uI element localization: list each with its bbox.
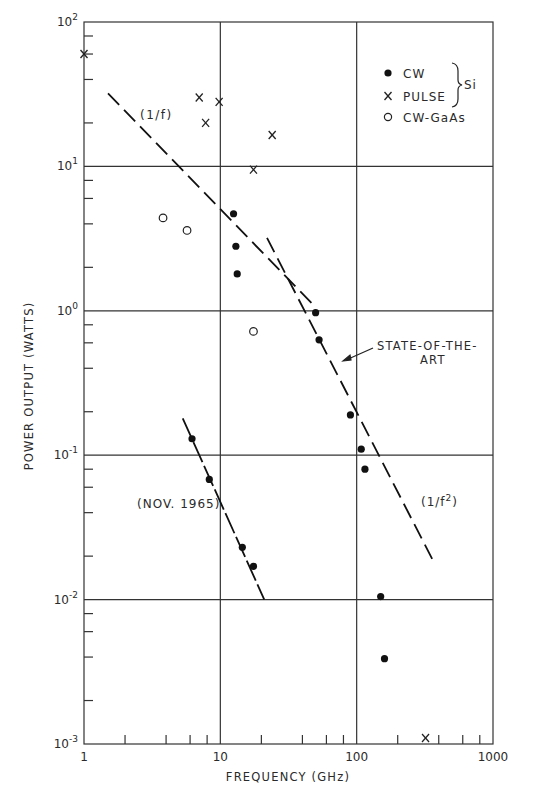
point-cw xyxy=(232,243,239,250)
annotation-arrow-icon xyxy=(343,348,373,361)
x-tick-label: 10 xyxy=(213,750,228,764)
plot-frame xyxy=(84,22,493,744)
point-cw xyxy=(361,466,368,473)
y-axis-title: POWER OUTPUT (WATTS) xyxy=(22,302,36,471)
grid-lines xyxy=(84,22,493,744)
annotation-state-of-the-art: STATE-OF-THE- xyxy=(377,339,478,353)
x-tick-label: 100 xyxy=(345,750,368,764)
point-cw xyxy=(234,270,241,277)
point-cw-gaas xyxy=(159,214,167,222)
point-pulse xyxy=(202,119,209,127)
point-cw xyxy=(230,210,237,217)
point-pulse xyxy=(269,131,276,139)
y-tick-labels: 10210110010-110-210-3 xyxy=(54,12,79,751)
legend-pulse-label: PULSE xyxy=(403,90,446,104)
legend-cw-marker-icon xyxy=(384,69,391,76)
point-pulse xyxy=(196,94,203,102)
point-cw xyxy=(239,544,246,551)
data-points xyxy=(81,50,430,742)
y-tick-label: 10-1 xyxy=(54,445,78,462)
point-cw xyxy=(377,593,384,600)
annotation-nov-1965: (NOV. 1965) xyxy=(137,497,220,511)
legend: CW PULSE CW-GaAs Si xyxy=(384,63,477,125)
y-tick-label: 101 xyxy=(57,156,78,173)
legend-pulse-marker-icon xyxy=(385,92,392,100)
annotation-1-over-f: (1/f) xyxy=(140,108,173,122)
power-vs-frequency-chart: 10210110010-110-210-3 1101001000 FREQUEN… xyxy=(0,0,538,808)
point-cw-gaas xyxy=(250,328,258,336)
point-cw xyxy=(206,476,213,483)
point-cw xyxy=(312,309,319,316)
legend-cw-label: CW xyxy=(403,67,425,81)
point-cw-gaas xyxy=(183,227,191,235)
annotation-state-of-the-art-line2: ART xyxy=(420,353,446,367)
y-tick-label: 102 xyxy=(57,12,78,29)
point-pulse xyxy=(216,98,223,106)
point-cw xyxy=(315,336,322,343)
trend-line xyxy=(267,238,434,563)
annotation-1-over-f2: (1/f2) xyxy=(421,493,458,509)
y-tick-label: 10-3 xyxy=(54,734,78,751)
point-cw xyxy=(188,435,195,442)
x-tick-labels: 1101001000 xyxy=(80,750,508,764)
x-tick-label: 1 xyxy=(80,750,88,764)
legend-gaas-label: CW-GaAs xyxy=(403,111,466,125)
point-cw xyxy=(358,446,365,453)
point-cw xyxy=(250,563,257,570)
legend-brace-icon xyxy=(452,63,462,107)
point-cw xyxy=(347,411,354,418)
y-tick-label: 100 xyxy=(57,301,78,318)
y-tick-label: 10-2 xyxy=(54,590,78,607)
x-axis-title: FREQUENCY (GHz) xyxy=(226,770,350,784)
x-tick-label: 1000 xyxy=(478,750,509,764)
point-pulse xyxy=(422,734,429,742)
axis-ticks xyxy=(84,36,480,744)
legend-si-label: Si xyxy=(464,78,477,92)
point-cw xyxy=(381,655,388,662)
legend-gaas-marker-icon xyxy=(384,113,391,120)
trend-line xyxy=(108,93,313,304)
